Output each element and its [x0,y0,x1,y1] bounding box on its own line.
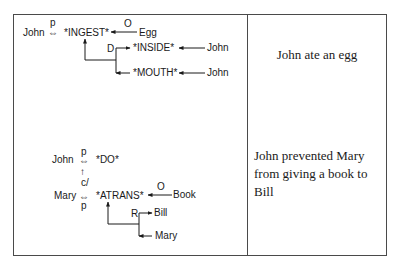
caption-john-ate-egg: John ate an egg [248,46,386,64]
actor-john: John [52,154,74,165]
cd-diagrams: John p ⇔ *INGEST* O Egg D *INSIDE* *MOUT… [0,0,401,267]
to-inside: *INSIDE* [133,42,174,53]
causal-label: c/ [81,177,89,188]
caption-john-prevented-mary: John prevented Mary from giving a book t… [254,147,382,201]
diagram-atrans: John p ⇔ *DO* ↑ c/ Mary ⇔ p *ATRANS* O B… [52,146,197,241]
object-egg: Egg [139,27,157,38]
primitive-ingest: *INGEST* [64,27,109,38]
object-label-o: O [124,18,132,29]
actor-john: John [23,27,45,38]
direction-label-d: D [107,43,114,54]
from-owner-john: John [207,67,229,78]
primitive-do: *DO* [96,154,119,165]
actor-mary: Mary [54,190,76,201]
primitive-atrans: *ATRANS* [96,190,144,201]
to-owner-john: John [207,42,229,53]
object-label-o: O [157,181,165,192]
diagram-ingest: John p ⇔ *INGEST* O Egg D *INSIDE* *MOUT… [23,17,229,78]
two-way-link-icon: ⇔ [48,27,58,38]
causal-arrow-icon: ↑ [80,166,85,177]
from-mouth: *MOUTH* [133,67,178,78]
two-way-link-icon: ⇔ [79,155,89,166]
recipient-label-r: R [131,208,138,219]
to-bill: Bill [154,207,167,218]
object-book: Book [173,189,197,200]
from-mary: Mary [155,230,177,241]
link-label-p: p [81,200,87,211]
